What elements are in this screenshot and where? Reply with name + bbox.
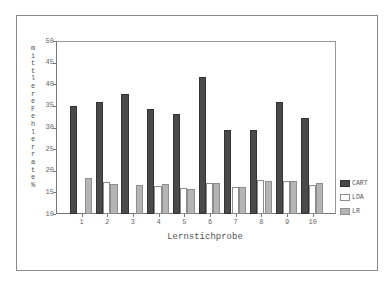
y-tick-label: 25 bbox=[38, 146, 54, 153]
x-tick-label: 7 bbox=[228, 218, 244, 226]
x-tick-mark bbox=[82, 214, 83, 217]
bar-lr bbox=[239, 187, 246, 214]
bar-cart bbox=[301, 118, 308, 214]
legend-item-cart: CART bbox=[340, 176, 368, 190]
x-axis-label: Lernstichprobe bbox=[140, 232, 270, 242]
y-tick-mark bbox=[53, 106, 56, 107]
legend-label: LDA bbox=[352, 194, 364, 201]
legend: CART LDA LR bbox=[340, 176, 368, 218]
y-tick-mark bbox=[53, 128, 56, 129]
bar-lda bbox=[180, 188, 187, 214]
x-tick-label: 3 bbox=[125, 218, 141, 226]
legend-item-lda: LDA bbox=[340, 190, 368, 204]
lda-swatch-icon bbox=[340, 194, 350, 201]
bar-cart bbox=[121, 94, 128, 214]
x-tick-label: 1 bbox=[74, 218, 90, 226]
x-tick-label: 6 bbox=[202, 218, 218, 226]
bar-lr bbox=[316, 183, 323, 214]
x-tick-mark bbox=[107, 214, 108, 217]
y-tick-mark bbox=[53, 214, 56, 215]
y-tick-mark bbox=[53, 84, 56, 85]
bar-lr bbox=[85, 178, 92, 214]
bar-lr bbox=[162, 184, 169, 214]
y-tick-mark bbox=[53, 171, 56, 172]
x-tick-mark bbox=[236, 214, 237, 217]
bar-lr bbox=[187, 189, 194, 214]
y-tick-mark bbox=[53, 41, 56, 42]
y-tick-label: 30 bbox=[38, 124, 54, 131]
legend-label: LR bbox=[352, 208, 360, 215]
x-tick-mark bbox=[313, 214, 314, 217]
bar-cart bbox=[96, 102, 103, 214]
bar-cart bbox=[250, 130, 257, 214]
x-tick-mark bbox=[133, 214, 134, 217]
bar-cart bbox=[173, 114, 180, 214]
x-tick-label: 4 bbox=[151, 218, 167, 226]
bar-cart bbox=[70, 106, 77, 214]
y-tick-label: 15 bbox=[38, 189, 54, 196]
y-tick-mark bbox=[53, 63, 56, 64]
x-tick-label: 8 bbox=[253, 218, 269, 226]
bar-cart bbox=[199, 77, 206, 214]
bar-lda bbox=[309, 185, 316, 214]
bar-lda bbox=[206, 183, 213, 214]
y-tick-label: 40 bbox=[38, 81, 54, 88]
bar-lda bbox=[232, 187, 239, 214]
x-tick-mark bbox=[287, 214, 288, 217]
x-tick-label: 5 bbox=[176, 218, 192, 226]
y-tick-mark bbox=[53, 192, 56, 193]
legend-item-lr: LR bbox=[340, 204, 368, 218]
bar-lr bbox=[213, 183, 220, 214]
bar-lr bbox=[110, 184, 117, 214]
bar-cart bbox=[276, 102, 283, 214]
bar-lda bbox=[154, 186, 161, 214]
y-tick-label: 20 bbox=[38, 167, 54, 174]
y-tick-label: 35 bbox=[38, 102, 54, 109]
lr-swatch-icon bbox=[340, 208, 350, 215]
x-tick-mark bbox=[210, 214, 211, 217]
x-tick-label: 9 bbox=[279, 218, 295, 226]
y-tick-mark bbox=[53, 149, 56, 150]
bar-lr bbox=[290, 181, 297, 214]
x-tick-mark bbox=[184, 214, 185, 217]
x-tick-mark bbox=[261, 214, 262, 217]
x-tick-mark bbox=[159, 214, 160, 217]
bar-lr bbox=[265, 181, 272, 214]
y-tick-label: 10 bbox=[38, 211, 54, 218]
bar-lda bbox=[257, 180, 264, 214]
bar-lr bbox=[136, 185, 143, 214]
bar-cart bbox=[147, 109, 154, 214]
bar-cart bbox=[224, 130, 231, 214]
legend-label: CART bbox=[352, 180, 368, 187]
y-axis-label: mittlere Fehlerrate % bbox=[29, 45, 37, 189]
y-tick-label: 45 bbox=[38, 59, 54, 66]
x-tick-label: 2 bbox=[99, 218, 115, 226]
bar-lda bbox=[283, 181, 290, 214]
x-tick-label: 10 bbox=[305, 218, 321, 226]
cart-swatch-icon bbox=[340, 180, 350, 187]
y-tick-label: 50 bbox=[38, 38, 54, 45]
bar-lda bbox=[103, 182, 110, 214]
